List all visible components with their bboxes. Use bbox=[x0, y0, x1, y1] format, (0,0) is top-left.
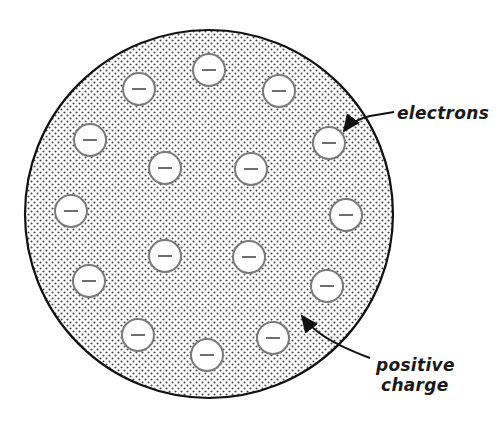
electron bbox=[74, 124, 106, 156]
electron bbox=[122, 319, 154, 351]
electron bbox=[311, 270, 343, 302]
electron bbox=[123, 73, 155, 105]
electron bbox=[313, 127, 345, 159]
electron bbox=[55, 195, 87, 227]
electron bbox=[263, 75, 295, 107]
electron bbox=[235, 153, 267, 185]
electrons-label: electrons bbox=[397, 103, 489, 123]
positive-charge-label-line2: charge bbox=[381, 375, 449, 395]
electron bbox=[73, 265, 105, 297]
electron bbox=[149, 152, 181, 184]
electron bbox=[149, 240, 181, 272]
electron bbox=[191, 339, 223, 371]
electron bbox=[330, 199, 362, 231]
positive-charge-label-line1: positive bbox=[376, 355, 455, 375]
electron bbox=[233, 241, 265, 273]
electron bbox=[193, 54, 225, 86]
electron bbox=[257, 322, 289, 354]
